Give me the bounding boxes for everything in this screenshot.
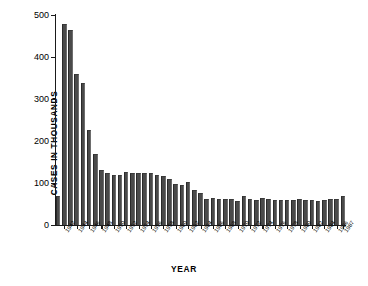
bar — [74, 74, 79, 225]
y-tick-label: 500 — [34, 10, 49, 20]
bar — [81, 83, 86, 225]
bar — [186, 182, 191, 225]
bar — [99, 170, 104, 225]
bar — [118, 175, 123, 225]
bar — [68, 30, 73, 225]
bar — [87, 130, 92, 225]
bar — [130, 173, 135, 225]
bar — [167, 179, 172, 225]
bar — [161, 176, 166, 225]
y-tick-label: 200 — [34, 136, 49, 146]
bar — [136, 173, 141, 225]
y-tick-label: 300 — [34, 94, 49, 104]
bar — [124, 172, 129, 225]
bar — [112, 175, 117, 225]
y-tick-label: 400 — [34, 52, 49, 62]
bar — [155, 175, 160, 225]
y-tick-label: 100 — [34, 178, 49, 188]
bar-chart: CASES IN THOUSANDS 0100200300400500 1942… — [0, 0, 368, 286]
bar — [62, 24, 67, 225]
bar — [334, 199, 339, 225]
bar — [56, 196, 61, 225]
bar — [149, 173, 154, 225]
bar — [173, 184, 178, 225]
bar — [198, 193, 203, 225]
x-axis-title: YEAR — [0, 264, 368, 274]
bar — [142, 173, 147, 226]
bar — [93, 154, 98, 225]
y-tick-label: 0 — [44, 220, 49, 230]
bar-series — [55, 15, 346, 225]
bar — [105, 173, 110, 225]
